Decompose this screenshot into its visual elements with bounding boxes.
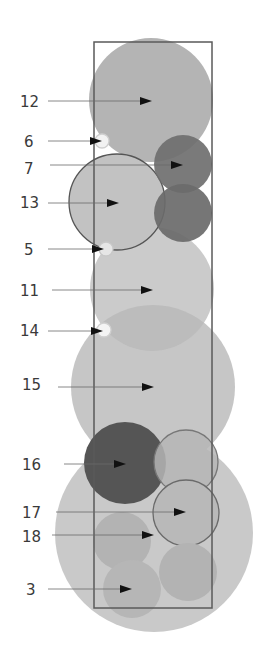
callout-label: 13 — [20, 194, 39, 212]
callout-label: 15 — [22, 376, 41, 394]
callout-label: 3 — [26, 581, 36, 599]
c-7b-circle — [154, 184, 212, 242]
c-bottom-right-circle — [159, 543, 217, 601]
callout-label: 16 — [22, 456, 41, 474]
callout-label: 6 — [24, 133, 34, 151]
callout-label: 18 — [22, 528, 41, 546]
callout-label: 17 — [22, 504, 41, 522]
callout-label: 5 — [24, 241, 34, 259]
callout-label: 11 — [20, 282, 39, 300]
callout-6: 6 — [24, 133, 102, 151]
c-13-circle — [69, 154, 165, 250]
callout-label: 14 — [20, 322, 39, 340]
c-17-circle — [153, 480, 219, 546]
callout-label: 7 — [24, 160, 34, 178]
c-18-circle — [93, 512, 151, 570]
circle-callout-diagram: 12671351114151617183 — [0, 0, 275, 652]
callout-label: 12 — [20, 93, 39, 111]
circles-layer — [55, 38, 253, 632]
